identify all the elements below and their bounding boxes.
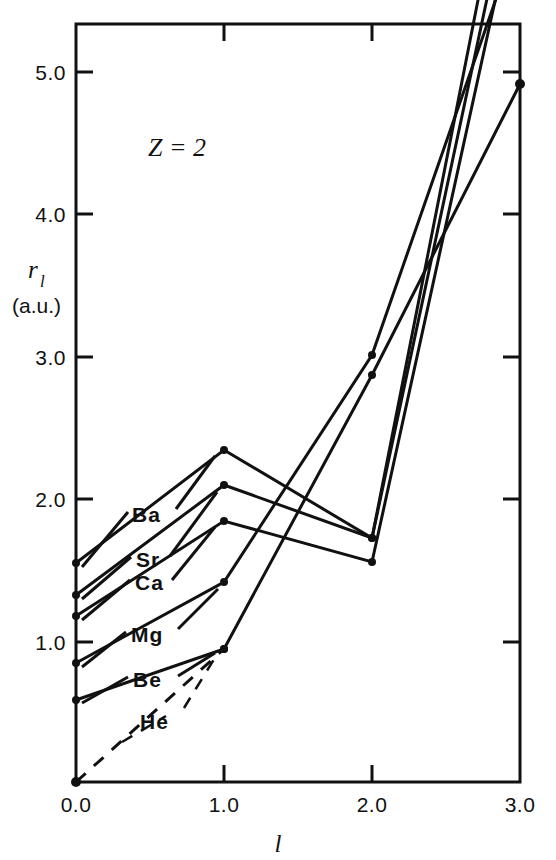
y-tick-label-2.0: 2.0 — [35, 488, 66, 511]
series-lines — [76, 0, 520, 782]
x-axis-ticks — [224, 24, 372, 782]
leader-Mg — [82, 632, 126, 667]
leader-Ca-right — [172, 527, 215, 580]
x-tick-label-1.0: 1.0 — [209, 793, 240, 816]
x-tick-label-2.0: 2.0 — [357, 793, 388, 816]
series-line-Ba — [76, 0, 520, 563]
y-tick-labels: 5.0 4.0 3.0 2.0 1.0 — [35, 61, 66, 654]
y-axis-label-units: (a.u.) — [12, 294, 61, 317]
marker-Mg-1 — [220, 578, 228, 586]
marker-Ba-0 — [72, 559, 80, 567]
marker-Sr-1 — [220, 481, 228, 489]
series-label-Mg: Mg — [131, 623, 163, 646]
leader-Be — [82, 677, 128, 703]
leader-Sr-right — [170, 492, 217, 556]
series-labels: Ba Sr Ca Mg Be He — [131, 503, 169, 733]
annotation-symbol: Z = 2 — [148, 133, 206, 162]
y-tick-label-3.0: 3.0 — [35, 346, 66, 369]
y-tick-label-4.0: 4.0 — [35, 203, 66, 226]
series-label-He: He — [140, 710, 169, 733]
marker-Ca-2 — [368, 558, 376, 566]
series-label-Sr: Sr — [136, 548, 160, 571]
marker-Ca-1 — [220, 517, 228, 525]
x-tick-label-0.0: 0.0 — [61, 793, 92, 816]
marker-Be-0 — [72, 696, 80, 704]
figure-panel: 5.0 4.0 3.0 2.0 1.0 0.0 1.0 2.0 3.0 l r … — [0, 0, 556, 860]
series-label-Be: Be — [133, 668, 162, 691]
series-line-Be — [76, 84, 520, 700]
marker-Ba-1 — [220, 446, 228, 454]
annotation-Z: Z = 2 — [148, 133, 206, 162]
y-axis-label-symbol: r — [28, 256, 38, 283]
marker-Be-2 — [368, 371, 376, 379]
y-axis-label-subscript: l — [40, 272, 45, 291]
marker-Mg-0 — [72, 659, 80, 667]
y-tick-label-5.0: 5.0 — [35, 61, 66, 84]
leader-Ba — [82, 512, 128, 567]
y-tick-label-1.0: 1.0 — [35, 631, 66, 654]
marker-Ca-0 — [72, 612, 80, 620]
marker-Be-3 — [515, 79, 525, 89]
series-label-Ba: Ba — [132, 503, 161, 526]
x-tick-labels: 0.0 1.0 2.0 3.0 — [61, 793, 536, 816]
series-label-Ca: Ca — [135, 571, 164, 594]
x-tick-label-3.0: 3.0 — [505, 793, 536, 816]
marker-Sr-0 — [72, 591, 80, 599]
marker-He-0 — [71, 777, 81, 787]
leader-Sr — [82, 557, 131, 599]
marker-Mg-2 — [368, 351, 376, 359]
marker-He-1 — [220, 645, 228, 653]
chart-canvas: 5.0 4.0 3.0 2.0 1.0 0.0 1.0 2.0 3.0 l r … — [0, 0, 556, 860]
marker-Sr-2 — [368, 534, 376, 542]
x-axis-label: l — [275, 830, 282, 857]
